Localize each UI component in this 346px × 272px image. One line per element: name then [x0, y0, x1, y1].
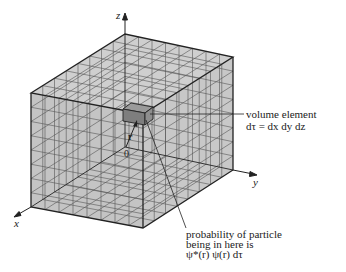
probability-line3: ψ*(r) ψ(r) dτ — [186, 249, 282, 259]
diagram: z x y 0 r volume element dτ = dx dy dz p… — [0, 0, 346, 272]
volume-element-cube — [123, 103, 153, 125]
x-axis-label: x — [14, 218, 19, 229]
z-axis-label: z — [116, 10, 120, 21]
volume-element-label: volume element dτ = dx dy dz — [246, 109, 317, 132]
volume-element-line2: dτ = dx dy dz — [246, 121, 317, 132]
box-drawing — [0, 0, 346, 272]
probability-label: probability of particle being in here is… — [186, 229, 282, 259]
r-vector-label: r — [128, 131, 132, 142]
y-axis-label: y — [253, 177, 258, 188]
origin-label: 0 — [124, 148, 129, 159]
volume-element-line1: volume element — [246, 109, 317, 120]
